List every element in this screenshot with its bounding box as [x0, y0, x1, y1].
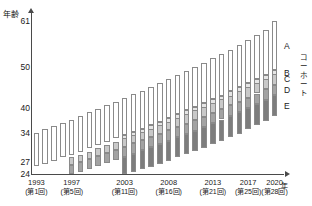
x-tick-round: (第5回): [60, 187, 83, 196]
x-axis-line: [31, 174, 284, 175]
bar-segment-E: [192, 131, 197, 151]
bar-segment-C: [148, 129, 153, 137]
bar-segment-E: [245, 108, 250, 129]
bar-segment-D: [219, 109, 224, 119]
bar-segment-D: [272, 85, 277, 95]
bar-segment-A: [104, 105, 109, 141]
bar-segment-D: [148, 137, 153, 147]
x-tick-year: 2013: [200, 178, 226, 187]
bar-segment-A: [175, 75, 180, 114]
bar-2017: [245, 13, 250, 174]
bar-segment-E: [219, 120, 224, 141]
legend-title: コーホート: [298, 53, 309, 98]
bar-segment-A: [263, 30, 268, 75]
bar-segment-A: [201, 63, 206, 103]
bar-segment-E: [272, 95, 277, 116]
bar-segment-D: [69, 165, 74, 174]
bar-segment-A: [87, 112, 92, 148]
legend-item-E: E: [284, 101, 290, 111]
bar-segment-A: [95, 109, 100, 145]
bar-segment-D: [122, 147, 127, 157]
bar-2010: [184, 13, 189, 174]
bar-2006: [148, 13, 153, 174]
bar-segment-E: [237, 112, 242, 133]
x-tick-1997: 1997(第5回): [60, 178, 83, 196]
y-axis-tick-labels: 242734405061: [0, 0, 30, 206]
bar-segment-D: [131, 143, 136, 153]
y-tick-27: 27: [2, 157, 30, 167]
bar-segment-C: [237, 91, 242, 101]
x-axis-title: 年: [281, 180, 288, 190]
bar-2009: [175, 13, 180, 174]
bar-segment-D: [87, 159, 92, 169]
bar-segment-A: [245, 40, 250, 83]
bar-segment-A: [113, 102, 118, 139]
bar-2007: [157, 13, 162, 174]
bar-segment-E: [254, 104, 259, 125]
bar-segment-C: [254, 83, 259, 93]
bar-segment-C: [104, 145, 109, 153]
x-tick-round: (第16回): [155, 187, 181, 196]
bar-segment-D: [140, 140, 145, 150]
bar-2005: [140, 13, 145, 174]
bar-1997: [69, 13, 74, 174]
bar-segment-C: [140, 132, 145, 140]
bar-segment-D: [184, 124, 189, 134]
bar-segment-C: [166, 122, 171, 131]
bar-2000: [95, 13, 100, 174]
legend: コーホート ABCDE: [283, 13, 312, 174]
bar-segment-C: [175, 118, 180, 127]
bar-segment-C: [210, 103, 215, 113]
bar-segment-C: [272, 74, 277, 85]
bar-segment-D: [192, 120, 197, 130]
bar-segment-D: [201, 117, 206, 127]
bar-segment-C: [201, 107, 206, 117]
bar-segment-C: [78, 155, 83, 162]
bar-segment-E: [175, 137, 180, 157]
bar-segment-D: [113, 150, 118, 160]
plot-area: [32, 13, 279, 174]
legend-item-C: C: [284, 74, 290, 84]
y-tick-34: 34: [2, 128, 30, 138]
bar-2008: [166, 13, 171, 174]
bar-segment-A: [254, 35, 259, 79]
bar-segment-A: [51, 126, 56, 161]
bar-segment-A: [69, 120, 74, 155]
bar-segment-E: [140, 150, 145, 169]
y-tick-61: 61: [2, 16, 30, 26]
bar-segment-A: [210, 58, 215, 99]
bar-segment-E: [210, 123, 215, 144]
bar-segment-D: [157, 134, 162, 144]
bar-1996: [60, 13, 65, 174]
bar-2004: [131, 13, 136, 174]
x-tick-year: 2003: [112, 178, 138, 187]
x-tick-year: 1997: [60, 178, 83, 187]
bar-1998: [78, 13, 83, 174]
x-tick-round: (第11回): [112, 187, 138, 196]
bar-1995: [51, 13, 56, 174]
y-tick-50: 50: [2, 62, 30, 72]
bar-2002: [113, 13, 118, 174]
x-tick-year: 2017: [235, 178, 261, 187]
bar-segment-D: [175, 127, 180, 137]
bar-segment-C: [192, 110, 197, 120]
legend-item-D: D: [284, 85, 290, 95]
bar-2014: [219, 13, 224, 174]
bar-segment-C: [228, 96, 233, 106]
x-tick-2008: 2008(第16回): [155, 178, 181, 196]
bar-2018: [254, 13, 259, 174]
bar-1999: [87, 13, 92, 174]
bar-segment-A: [272, 21, 277, 70]
bar-segment-A: [34, 133, 39, 166]
bar-segment-C: [131, 135, 136, 143]
bar-2013: [210, 13, 215, 174]
bar-segment-D: [254, 94, 259, 104]
bar-segment-E: [122, 157, 127, 174]
bar-2016: [237, 13, 242, 174]
bar-segment-A: [219, 54, 224, 95]
bar-1994: [42, 13, 47, 174]
bar-segment-D: [95, 156, 100, 166]
bar-segment-E: [131, 154, 136, 172]
x-tick-round: (第1回): [25, 187, 48, 196]
bar-segment-A: [140, 91, 145, 129]
